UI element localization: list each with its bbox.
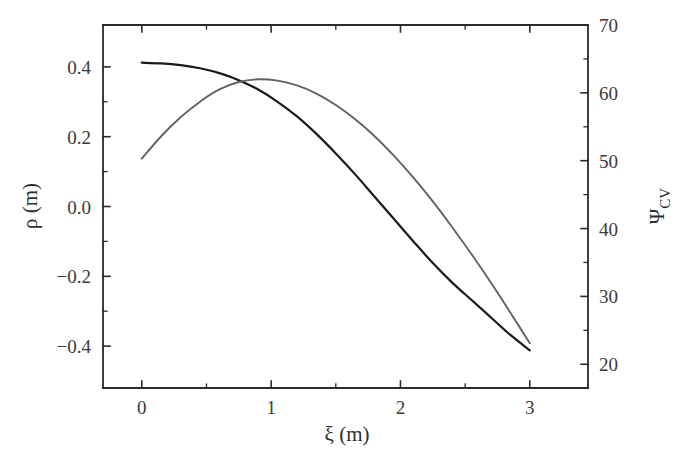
chart-canvas [0, 0, 694, 461]
x-tick-label: 2 [396, 398, 406, 417]
x-tick-label: 1 [266, 398, 276, 417]
y-tick-label-right: 40 [599, 219, 618, 238]
y-tick-label-right: 20 [599, 355, 618, 374]
y-tick-label-left: 0.4 [0, 57, 91, 76]
psi-symbol: Ψ [645, 209, 669, 225]
y-tick-label-left: 0.2 [0, 127, 91, 146]
x-axis-title: ξ (m) [325, 424, 370, 445]
data-series [142, 63, 530, 351]
axis-ticks [103, 25, 588, 388]
plot-frame [103, 25, 588, 388]
y-tick-label-left: −0.4 [0, 337, 91, 356]
x-tick-label: 3 [525, 398, 535, 417]
x-tick-label: 0 [137, 398, 147, 417]
y-axis-title-left: ρ (m) [20, 183, 41, 229]
y-tick-label-left: −0.2 [0, 267, 91, 286]
y-tick-label-right: 70 [599, 16, 618, 35]
y-tick-label-right: 30 [599, 287, 618, 306]
y-axis-title-right: ΨCV [647, 188, 672, 224]
series-line-psi_CV [142, 79, 530, 343]
figure-container: 0123−0.4−0.20.00.20.4203040506070 ξ (m) … [0, 0, 694, 461]
psi-subscript: CV [657, 188, 673, 209]
y-tick-label-right: 50 [599, 151, 618, 170]
y-tick-label-left: 0.0 [0, 197, 91, 216]
y-tick-label-right: 60 [599, 83, 618, 102]
